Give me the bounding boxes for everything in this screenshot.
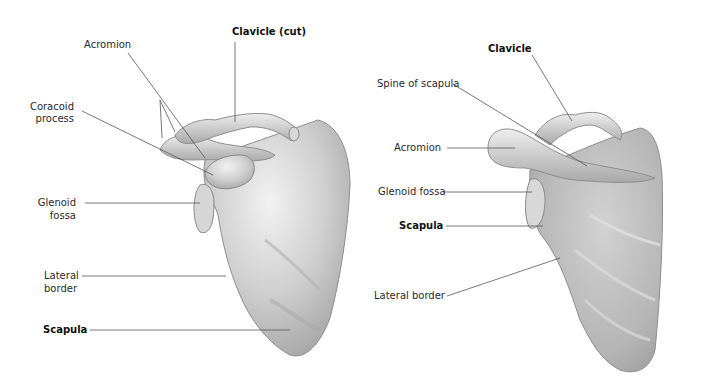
label-clavicle-right: Clavicle [488,43,532,55]
diagram-stage: Clavicle (cut) Acromion Coracoid process… [0,0,701,390]
label-glenoid-fossa-right: Glenoid fossa [378,186,446,198]
label-acromion-left: Acromion [84,39,131,51]
label-spine-of-scapula: Spine of scapula [377,78,459,90]
label-lateral-border-right: Lateral border [374,290,445,302]
label-coracoid-line1: Coracoid [24,101,74,113]
label-lateral-line1: Lateral [44,270,79,282]
bones-illustration [0,0,701,390]
label-scapula-left: Scapula [43,324,87,336]
label-glenoid-line1: Glenoid [24,197,76,209]
label-coracoid-line2: process [24,113,74,125]
label-acromion-right: Acromion [394,142,441,154]
label-scapula-right: Scapula [399,220,443,232]
label-clavicle-cut: Clavicle (cut) [232,26,306,38]
label-glenoid-line2: fossa [24,210,76,222]
label-lateral-line2: border [44,283,77,295]
